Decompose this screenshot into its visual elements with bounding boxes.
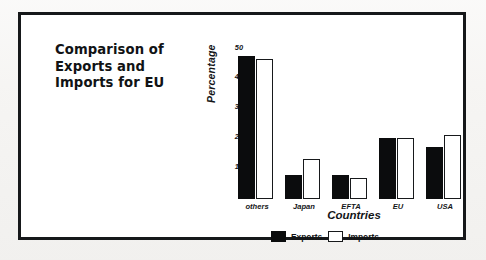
x-axis-label: Countries — [299, 209, 409, 221]
bar-imports-efta[interactable] — [350, 178, 367, 199]
chart-legend: Exports Imports — [271, 231, 379, 242]
filled-black-swatch-icon — [271, 231, 286, 242]
page-title: Comparison of Exports and Imports for EU — [55, 42, 205, 92]
bar-exports-efta[interactable] — [332, 175, 349, 199]
title-line-1: Comparison of — [55, 42, 205, 59]
bars-area: others Japan EFTA EU USA — [237, 47, 473, 199]
bar-group-eu — [378, 47, 418, 199]
bar-group-efta — [331, 47, 371, 199]
bar-imports-others[interactable] — [256, 59, 273, 199]
legend-item-exports[interactable]: Exports — [271, 231, 322, 242]
bar-exports-others[interactable] — [238, 56, 255, 199]
bar-imports-japan[interactable] — [303, 159, 320, 199]
legend-label-imports: Imports — [348, 232, 379, 242]
figure-frame: Comparison of Exports and Imports for EU… — [18, 12, 466, 240]
outlined-white-swatch-icon — [328, 231, 343, 242]
title-line-3: Imports for EU — [55, 75, 205, 92]
legend-item-imports[interactable]: Imports — [328, 231, 379, 242]
y-axis-label: Percentage — [205, 44, 217, 103]
legend-label-exports: Exports — [291, 232, 322, 242]
title-line-2: Exports and — [55, 59, 205, 76]
bar-group-usa — [425, 47, 465, 199]
scanned-page: Comparison of Exports and Imports for EU… — [0, 0, 486, 260]
bar-exports-eu[interactable] — [379, 138, 396, 199]
bar-exports-japan[interactable] — [285, 175, 302, 199]
bar-group-others — [237, 47, 277, 199]
bar-chart: Percentage 50 40 30 20 10 0 — [207, 39, 475, 249]
bar-group-japan — [284, 47, 324, 199]
bar-imports-eu[interactable] — [397, 138, 414, 199]
x-tick-usa: USA — [414, 202, 476, 211]
bar-imports-usa[interactable] — [444, 135, 461, 199]
bar-exports-usa[interactable] — [426, 147, 443, 199]
